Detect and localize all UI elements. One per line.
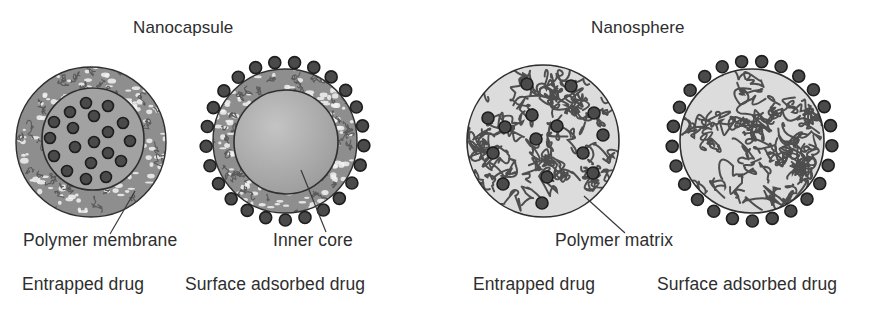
- surface-adsorbed-drug-molecule: [746, 215, 758, 227]
- surface-adsorbed-drug-molecule: [716, 61, 728, 73]
- caption-nanosphere-surface-adsorbed-drug: Surface adsorbed drug: [657, 276, 837, 294]
- surface-adsorbed-drug-molecule: [825, 120, 837, 132]
- entrapped-drug-molecule: [125, 136, 136, 147]
- entrapped-drug-molecule: [81, 98, 92, 109]
- inner-core: [234, 90, 338, 194]
- surface-adsorbed-drug-molecule: [279, 214, 291, 226]
- surface-adsorbed-drug-molecule: [793, 70, 805, 82]
- surface-adsorbed-drug-molecule: [269, 57, 281, 69]
- caption-nanocapsule-entrapped-drug: Entrapped drug: [22, 276, 144, 294]
- surface-adsorbed-drug-molecule: [218, 85, 230, 97]
- surface-adsorbed-drug-molecule: [346, 177, 358, 189]
- surface-adsorbed-drug-molecule: [670, 160, 682, 172]
- label-polymer-membrane: Polymer membrane: [23, 232, 177, 250]
- surface-adsorbed-drug-molecule: [708, 205, 720, 217]
- entrapped-drug-molecule: [541, 171, 553, 183]
- entrapped-drug-molecule: [497, 178, 509, 190]
- surface-adsorbed-drug-molecule: [814, 178, 826, 190]
- surface-adsorbed-drug-molecule: [691, 194, 703, 206]
- particles-layer: [16, 56, 838, 227]
- surface-adsorbed-drug-molecule: [260, 212, 272, 224]
- entrapped-drug-molecule: [487, 147, 499, 159]
- surface-adsorbed-drug-molecule: [826, 140, 838, 152]
- surface-adsorbed-drug-molecule: [699, 70, 711, 82]
- entrapped-drug-molecule: [118, 118, 129, 129]
- entrapped-drug-molecule: [551, 120, 563, 132]
- entrapped-drug-molecule: [89, 111, 100, 122]
- entrapped-drug-molecule: [482, 112, 494, 124]
- label-polymer-matrix: Polymer matrix: [555, 232, 673, 250]
- surface-adsorbed-drug-molecule: [250, 62, 262, 74]
- entrapped-drug-molecule: [521, 78, 533, 90]
- surface-adsorbed-drug-molecule: [200, 140, 212, 152]
- surface-adsorbed-drug-molecule: [785, 205, 797, 217]
- surface-adsorbed-drug-molecule: [775, 60, 787, 72]
- entrapped-drug-molecule: [116, 156, 127, 167]
- nanocapsule-surface-particle: [200, 57, 370, 226]
- entrapped-drug-molecule: [49, 151, 60, 162]
- surface-adsorbed-drug-molecule: [357, 120, 369, 132]
- surface-adsorbed-drug-molecule: [340, 84, 352, 96]
- surface-adsorbed-drug-molecule: [756, 56, 768, 68]
- entrapped-drug-molecule: [597, 129, 609, 141]
- entrapped-drug-molecule: [89, 137, 100, 148]
- entrapped-drug-molecule: [536, 197, 548, 209]
- nanosphere-surface-particle: [666, 56, 838, 227]
- entrapped-drug-molecule: [526, 109, 538, 121]
- surface-adsorbed-drug-molecule: [308, 61, 320, 73]
- surface-adsorbed-drug-molecule: [679, 178, 691, 190]
- label-inner-core: Inner core: [273, 232, 353, 250]
- entrapped-drug-molecule: [101, 172, 112, 183]
- caption-nanocapsule-surface-adsorbed-drug: Surface adsorbed drug: [185, 276, 365, 294]
- entrapped-drug-molecule: [499, 121, 511, 133]
- surface-adsorbed-drug-molecule: [207, 102, 219, 114]
- nanosphere-entrapped-particle: [452, 57, 630, 217]
- surface-adsorbed-drug-molecule: [666, 140, 678, 152]
- entrapped-drug-molecule: [45, 133, 56, 144]
- caption-nanosphere-entrapped-drug: Entrapped drug: [473, 276, 595, 294]
- surface-adsorbed-drug-molecule: [225, 193, 237, 205]
- surface-adsorbed-drug-molecule: [684, 84, 696, 96]
- surface-adsorbed-drug-molecule: [807, 84, 819, 96]
- title-nanocapsule: Nanocapsule: [133, 19, 233, 36]
- surface-adsorbed-drug-molecule: [299, 211, 311, 223]
- surface-adsorbed-drug-molecule: [358, 140, 370, 152]
- entrapped-drug-molecule: [587, 167, 599, 179]
- nanocapsule-entrapped-particle: [16, 62, 169, 217]
- surface-adsorbed-drug-molecule: [667, 120, 679, 132]
- surface-adsorbed-drug-molecule: [736, 56, 748, 68]
- entrapped-drug-molecule: [49, 117, 60, 128]
- title-nanosphere: Nanosphere: [591, 19, 685, 36]
- leader-polymer-matrix: [584, 196, 625, 233]
- surface-adsorbed-drug-molecule: [241, 204, 253, 216]
- entrapped-drug-molecule: [103, 101, 114, 112]
- surface-adsorbed-drug-molecule: [822, 159, 834, 171]
- surface-adsorbed-drug-molecule: [766, 212, 778, 224]
- entrapped-drug-molecule: [103, 127, 114, 138]
- entrapped-drug-molecule: [70, 142, 81, 153]
- surface-adsorbed-drug-molecule: [333, 192, 345, 204]
- entrapped-drug-molecule: [68, 123, 79, 134]
- entrapped-drug-molecule: [530, 133, 542, 145]
- surface-adsorbed-drug-molecule: [212, 178, 224, 190]
- surface-adsorbed-drug-molecule: [289, 57, 301, 69]
- surface-adsorbed-drug-molecule: [354, 159, 366, 171]
- nanoparticle-diagram: [0, 0, 882, 313]
- surface-adsorbed-drug-molecule: [204, 160, 216, 172]
- entrapped-drug-molecule: [81, 174, 92, 185]
- entrapped-drug-molecule: [62, 166, 73, 177]
- surface-adsorbed-drug-molecule: [818, 101, 830, 113]
- entrapped-drug-molecule: [588, 107, 600, 119]
- entrapped-drug-molecule: [565, 80, 577, 92]
- surface-adsorbed-drug-molecule: [232, 71, 244, 83]
- entrapped-drug-molecule: [103, 148, 114, 159]
- surface-adsorbed-drug-molecule: [673, 101, 685, 113]
- surface-adsorbed-drug-molecule: [325, 71, 337, 83]
- surface-adsorbed-drug-molecule: [726, 213, 738, 225]
- surface-adsorbed-drug-molecule: [201, 121, 213, 133]
- entrapped-drug-molecule: [577, 147, 589, 159]
- entrapped-drug-molecule: [65, 107, 76, 118]
- surface-adsorbed-drug-molecule: [350, 101, 362, 113]
- surface-adsorbed-drug-molecule: [801, 193, 813, 205]
- entrapped-drug-molecule: [86, 158, 97, 169]
